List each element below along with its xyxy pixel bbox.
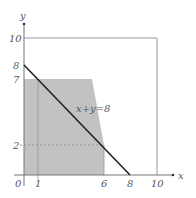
y-tick-2: 2	[12, 140, 19, 151]
x-tick-8: 8	[127, 178, 133, 189]
x-tick-6: 6	[101, 178, 108, 189]
x-axis-arrow-icon	[172, 174, 175, 177]
x-axis-label: x	[178, 170, 184, 181]
shaded-region	[24, 79, 104, 175]
x-tick-10: 10	[151, 178, 164, 189]
origin-label: 0	[15, 178, 22, 189]
line-label: x+y=8	[76, 103, 110, 114]
x-tick-1: 1	[35, 178, 41, 189]
y-tick-7: 7	[13, 74, 20, 85]
y-tick-8: 8	[13, 60, 19, 71]
y-tick-10: 10	[9, 33, 22, 44]
y-axis-arrow-icon	[23, 23, 26, 26]
diagram-canvas: y x 10 8 7 2 0 1 6 8 10 x+y=8	[0, 0, 196, 198]
y-axis-label: y	[19, 10, 26, 21]
